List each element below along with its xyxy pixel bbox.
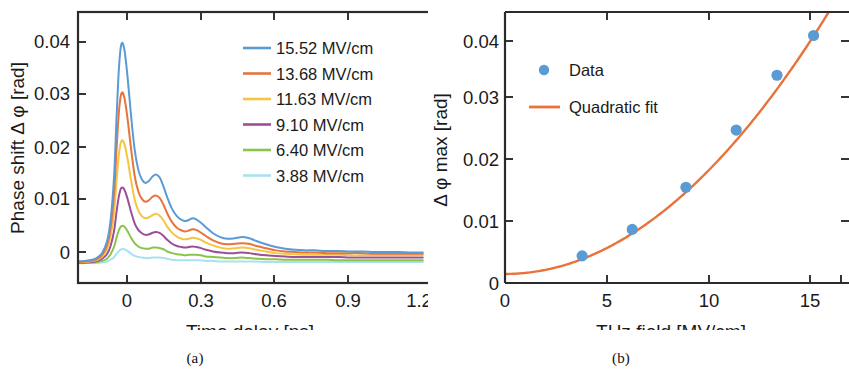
panel-b-xtick-0: 0: [500, 290, 510, 311]
panel-b-legend-label: Quadratic fit: [569, 98, 658, 116]
panel-a-legend-label: 6.40 MV/cm: [276, 141, 364, 159]
panel-b-plot: Δ φ max [rad] 0 0.01 0.02 0.03 0.04 0 5 …: [421, 0, 849, 330]
panel-b-axes-frame: [505, 12, 849, 283]
panel-b-ytick-3: 0.03: [463, 87, 499, 108]
panel-b-x-axis-label: THz field [MV/cm]: [596, 321, 746, 330]
panel-b-y-axis-label: Δ φ max [rad]: [430, 93, 451, 207]
panel-a-xtick-0: 0: [122, 290, 132, 311]
panel-a-legend-label: 15.52 MV/cm: [276, 39, 373, 57]
panel-b-data-point: [771, 70, 782, 81]
panel-b-ytick-4: 0.04: [463, 31, 499, 52]
panel-a-ytick-2: 0.02: [34, 137, 70, 158]
panel-b-xtick-2: 10: [699, 290, 720, 311]
panel-b-ytick-2: 0.02: [463, 149, 499, 170]
panel-a-legend-label: 13.68 MV/cm: [276, 65, 373, 83]
panel-b-sublabel: (b): [461, 350, 781, 367]
panel-b-data-point: [627, 224, 638, 235]
panel-a-legend-label: 3.88 MV/cm: [276, 167, 364, 185]
panel-b-legend-marker: [539, 65, 549, 75]
panel-b-xtick-1: 5: [602, 290, 612, 311]
panel-a-xtick-3: 0.9: [335, 290, 361, 311]
panel-a-xtick-1: 0.3: [188, 290, 214, 311]
panel-b-ytick-0: 0: [489, 273, 499, 294]
panel-a-x-axis-label: Time delay [ps]: [186, 321, 314, 330]
panel-b-ytick-1: 0.01: [463, 211, 499, 232]
panel-a-ytick-0: 0: [60, 242, 70, 263]
panel-a-ytick-4: 0.04: [34, 31, 70, 52]
panel-b-legend: DataQuadratic fit: [529, 61, 658, 116]
panel-a-xtick-2: 0.6: [261, 290, 287, 311]
panel-a-legend: 15.52 MV/cm13.68 MV/cm11.63 MV/cm9.10 MV…: [243, 39, 373, 185]
panel-a-sublabel: (a): [45, 350, 345, 367]
panel-b-tick-marks: [505, 12, 849, 283]
panel-a-legend-label: 11.63 MV/cm: [276, 90, 372, 108]
panel-a-legend-label: 9.10 MV/cm: [276, 116, 364, 134]
figure-container: Phase shift Δ φ [rad] 0 0.01 0.02 0.03 0…: [0, 0, 849, 371]
panel-b-data-point: [680, 182, 691, 193]
panel-b-data-point: [577, 250, 588, 261]
panel-a-y-axis-label: Phase shift Δ φ [rad]: [7, 62, 28, 234]
panel-b-data-point: [808, 30, 819, 41]
panel-b-fit-line: [505, 0, 841, 274]
panel-a-plot: Phase shift Δ φ [rad] 0 0.01 0.02 0.03 0…: [0, 0, 428, 330]
panel-b: Δ φ max [rad] 0 0.01 0.02 0.03 0.04 0 5 …: [421, 0, 849, 371]
panel-a: Phase shift Δ φ [rad] 0 0.01 0.02 0.03 0…: [0, 0, 428, 371]
panel-b-xtick-3: 15: [800, 290, 821, 311]
panel-b-legend-label: Data: [569, 61, 605, 79]
panel-a-ytick-1: 0.01: [34, 188, 70, 209]
panel-b-data-point: [731, 124, 742, 135]
panel-b-data: [505, 0, 841, 274]
panel-a-ytick-3: 0.03: [34, 83, 70, 104]
